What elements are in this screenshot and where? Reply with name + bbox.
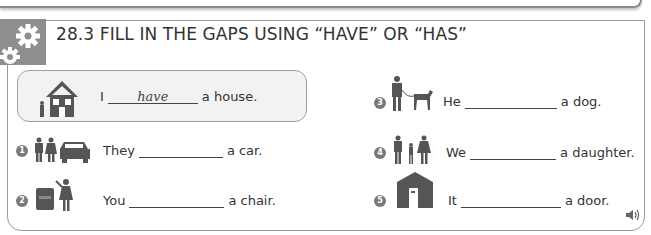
- example-answer-field[interactable]: have: [108, 89, 198, 104]
- gears-icon: [0, 19, 46, 65]
- couple-with-car-icon: [34, 137, 92, 163]
- item-3-subject: He: [443, 94, 461, 109]
- woman-with-armchair-icon: [34, 178, 76, 212]
- exercise-badge: [0, 19, 46, 65]
- item-number-3: 3: [374, 97, 386, 109]
- item-5-sentence: It a door.: [448, 193, 609, 208]
- item-3-sentence: He a dog.: [443, 94, 601, 109]
- example-ending: a house.: [202, 89, 257, 104]
- example-sentence: I have a house.: [100, 89, 257, 104]
- family-with-daughter-icon: [392, 135, 432, 165]
- item-2-answer-field[interactable]: [129, 193, 224, 208]
- item-5-ending: a door.: [565, 193, 610, 208]
- example-subject: I: [100, 89, 104, 104]
- house-with-person-icon: [38, 79, 80, 117]
- item-number-2: 2: [16, 195, 28, 207]
- top-divider: [0, 0, 642, 8]
- item-5-answer-field[interactable]: [461, 193, 561, 208]
- speaker-icon[interactable]: [625, 208, 641, 222]
- item-3-ending: a dog.: [561, 94, 602, 109]
- item-4-ending: a daughter.: [560, 145, 634, 160]
- item-1-answer-field[interactable]: [139, 143, 223, 158]
- item-number-4: 4: [374, 147, 386, 159]
- item-1-ending: a car.: [227, 143, 263, 158]
- item-1-subject: They: [103, 143, 135, 158]
- item-2-sentence: You a chair.: [103, 193, 276, 208]
- item-4-answer-field[interactable]: [470, 145, 556, 160]
- item-2-subject: You: [103, 193, 125, 208]
- item-5-subject: It: [448, 193, 457, 208]
- item-2-ending: a chair.: [228, 193, 275, 208]
- item-number-5: 5: [374, 195, 386, 207]
- item-1-sentence: They a car.: [103, 143, 262, 158]
- item-4-sentence: We a daughter.: [446, 145, 635, 160]
- item-4-subject: We: [446, 145, 466, 160]
- man-with-dog-icon: [390, 76, 434, 112]
- building-with-door-icon: [396, 172, 434, 208]
- item-number-1: 1: [16, 145, 28, 157]
- item-3-answer-field[interactable]: [465, 94, 557, 109]
- exercise-title: 28.3 FILL IN THE GAPS USING “HAVE” OR “H…: [56, 24, 467, 44]
